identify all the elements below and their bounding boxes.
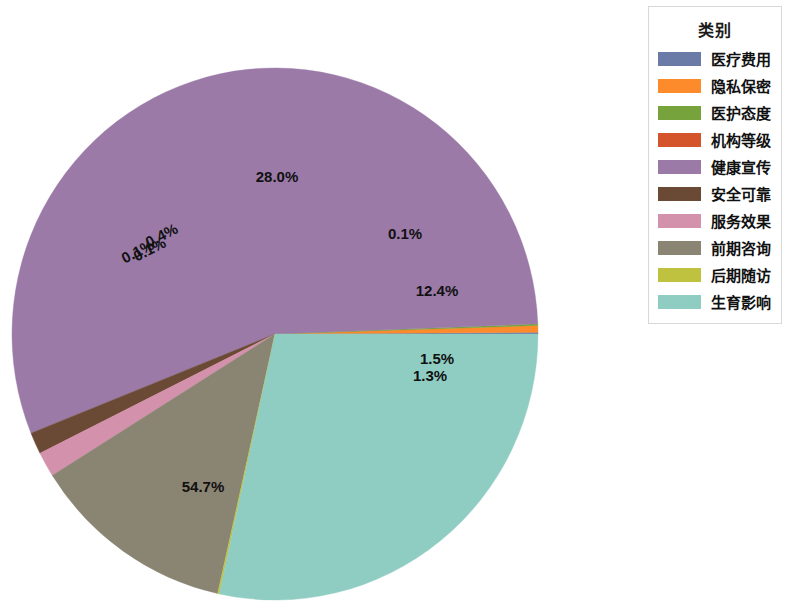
legend-item-label: 机构等级 [711,129,771,150]
legend-item-label: 安全可靠 [711,183,771,204]
legend-box: 类别 医疗费用隐私保密医护态度机构等级健康宣传安全可靠服务效果前期咨询后期随访生… [648,6,782,324]
legend-item[interactable]: 安全可靠 [649,180,781,207]
legend-swatch-icon [658,241,701,255]
pie-slice-percent-label: 12.4% [416,282,459,299]
pie-slice-percent-label: 0.1% [388,225,422,242]
legend-items: 医疗费用隐私保密医护态度机构等级健康宣传安全可靠服务效果前期咨询后期随访生育影响 [649,45,781,315]
legend-item-label: 医疗费用 [711,48,771,69]
legend-swatch-icon [658,160,701,174]
pie-slices-group [12,68,538,600]
legend-item-label: 健康宣传 [711,156,771,177]
legend-swatch-icon [658,214,701,228]
legend-item[interactable]: 机构等级 [649,126,781,153]
legend-item-label: 前期咨询 [711,237,771,258]
legend-item-label: 隐私保密 [711,75,771,96]
legend-item[interactable]: 医疗费用 [649,45,781,72]
legend-swatch-icon [658,187,701,201]
legend-item[interactable]: 服务效果 [649,207,781,234]
legend-swatch-icon [658,52,701,66]
legend-item-label: 后期随访 [711,264,771,285]
legend-title: 类别 [649,17,781,41]
legend-item[interactable]: 医护态度 [649,99,781,126]
pie-slice-percent-label: 1.5% [420,350,454,367]
pie-slice-percent-label: 1.3% [413,367,447,384]
legend-item[interactable]: 前期咨询 [649,234,781,261]
legend-item[interactable]: 生育影响 [649,288,781,315]
legend-swatch-icon [658,133,701,147]
legend-item-label: 服务效果 [711,210,771,231]
legend-item-label: 生育影响 [711,291,771,312]
legend-item[interactable]: 隐私保密 [649,72,781,99]
legend-item[interactable]: 后期随访 [649,261,781,288]
legend-swatch-icon [658,79,701,93]
pie-slice-percent-label: 54.7% [182,478,225,495]
legend-swatch-icon [658,106,701,120]
pie-slice[interactable] [219,334,538,600]
legend-swatch-icon [658,268,701,282]
pie-slice-percent-label: 28.0% [256,168,299,185]
pie-chart-figure: 0.1%0.4%0.1%54.7%1.3%1.5%12.4%0.1%28.0% … [0,0,788,606]
legend-item-label: 医护态度 [711,102,771,123]
legend-swatch-icon [658,295,701,309]
legend-item[interactable]: 健康宣传 [649,153,781,180]
